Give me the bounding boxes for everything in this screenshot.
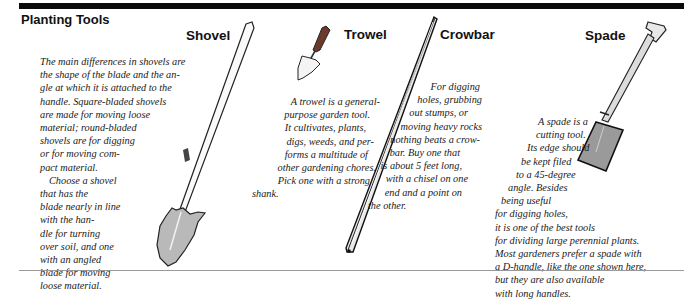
text-line: bar. Buy one that <box>360 146 482 159</box>
text-line: The main differences in shovels are <box>40 55 185 68</box>
text-line: are made for moving loose <box>40 108 185 121</box>
text-line: a D-handle, like the one shown here, <box>494 260 646 273</box>
text-line: with a chisel on one <box>360 172 482 185</box>
text-line: or for moving com- <box>40 147 185 160</box>
trowel-illustration <box>298 26 330 80</box>
text-line: cutting tool. <box>494 128 646 141</box>
bottom-rule <box>19 270 684 271</box>
text-line: Most gardeners prefer a spade with <box>494 247 646 260</box>
spade-description: A spade is a cutting tool. Its edge shou… <box>494 115 646 300</box>
text-line: it is one of the best tools <box>494 221 646 234</box>
text-line: moving heavy rocks <box>360 120 482 133</box>
tool-name-spade: Spade <box>585 28 626 43</box>
text-line: being useful <box>494 194 646 207</box>
text-line: but they are also available <box>494 273 646 286</box>
text-line: blade for moving <box>40 266 185 279</box>
text-line: handle. Square-bladed shovels <box>40 95 185 108</box>
text-line: shovels are for digging <box>40 134 185 147</box>
text-line: is about 5 feet long, <box>360 159 482 172</box>
text-line: that has the <box>40 187 185 200</box>
text-line: with the han- <box>40 213 185 226</box>
text-line: Choose a shovel <box>40 174 185 187</box>
text-line: loose material. <box>40 279 185 292</box>
text-line: pact material. <box>40 161 185 174</box>
text-line: to a 45-degree <box>494 168 646 181</box>
text-line: with an angled <box>40 253 185 266</box>
tool-name-shovel: Shovel <box>186 28 230 43</box>
crowbar-description: For digging holes, grubbing out stumps, … <box>360 80 482 212</box>
text-line: end and a point on <box>360 186 482 199</box>
text-line: angle. Besides <box>494 181 646 194</box>
text-line: with long handles. <box>494 287 646 300</box>
text-line: material; round-bladed <box>40 121 185 134</box>
shovel-description: The main differences in shovels are the … <box>40 55 185 293</box>
text-line: for digging holes, <box>494 207 646 220</box>
text-line: nothing beats a crow- <box>360 133 482 146</box>
text-line: Its edge should <box>494 141 646 154</box>
tool-name-crowbar: Crowbar <box>440 27 495 42</box>
text-line: be kept filed <box>494 155 646 168</box>
tool-name-trowel: Trowel <box>344 27 387 42</box>
text-line: the shape of the blade and the an- <box>40 68 185 81</box>
text-line: A spade is a <box>494 115 646 128</box>
text-line: For digging <box>360 80 482 93</box>
text-line: dle for turning <box>40 227 185 240</box>
text-line: over soil, and one <box>40 240 185 253</box>
text-line: gle at which it is attached to the <box>40 81 185 94</box>
text-line: out stumps, or <box>360 106 482 119</box>
text-line: blade nearly in line <box>40 200 185 213</box>
text-line: for dividing large perennial plants. <box>494 234 646 247</box>
text-line: the other. <box>368 199 482 212</box>
text-line: holes, grubbing <box>360 93 482 106</box>
